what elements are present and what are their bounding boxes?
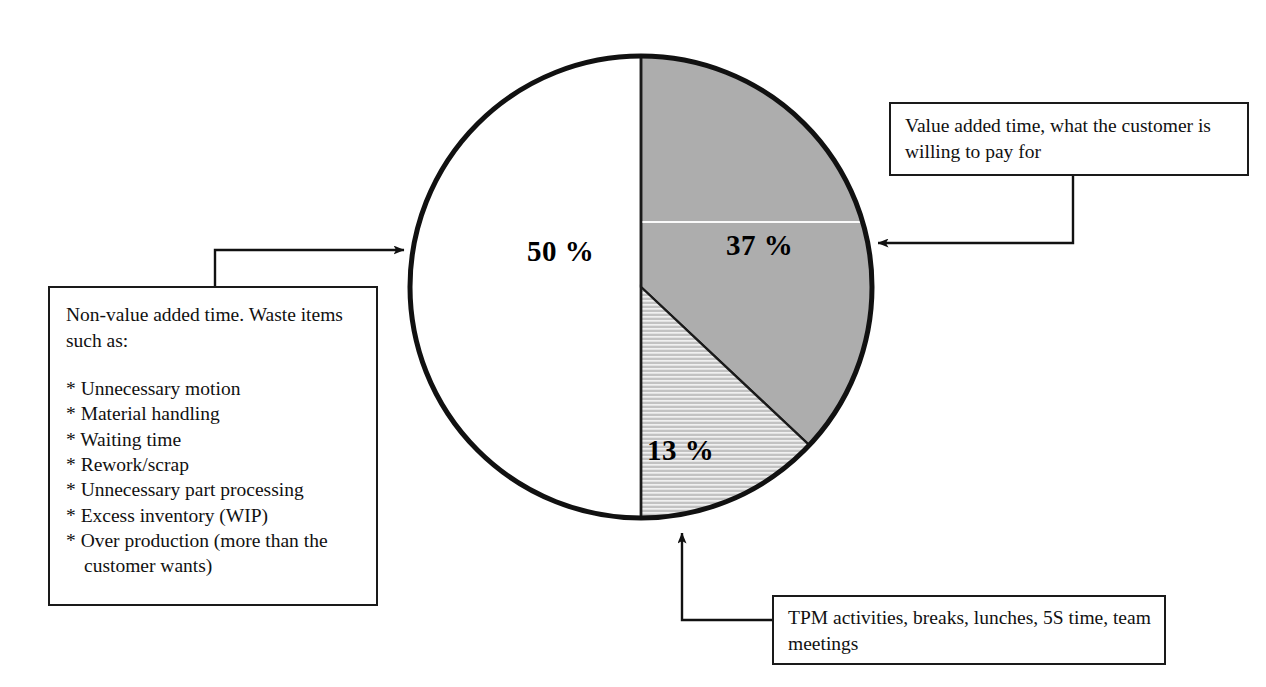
waste-items-list: * Unnecessary motion * Material handling… (66, 376, 364, 579)
list-item: * Unnecessary part processing (66, 477, 364, 502)
callout-value-added-text: Value added time, what the customer is w… (905, 113, 1237, 165)
list-item: * Waiting time (66, 427, 364, 452)
callout-tpm[interactable]: TPM activities, breaks, lunches, 5S time… (772, 595, 1166, 665)
list-item: * Rework/scrap (66, 452, 364, 477)
list-item: * Over production (more than the custome… (66, 528, 364, 579)
list-item: * Excess inventory (WIP) (66, 503, 364, 528)
pie-slice-non-value-added[interactable] (410, 56, 641, 518)
pie-label-value-added: 37 % (726, 229, 793, 262)
pie-chart-diagram: 50 % 37 % 13 % Non-value added time. Was… (0, 0, 1266, 687)
connector-non-value-added (215, 250, 404, 286)
callout-value-added[interactable]: Value added time, what the customer is w… (889, 102, 1249, 176)
list-item: * Unnecessary motion (66, 376, 364, 401)
pie-label-non-value-added: 50 % (527, 235, 594, 268)
list-item: * Material handling (66, 401, 364, 426)
callout-non-value-added-lead: Non-value added time. Waste items such a… (66, 302, 364, 354)
callout-tpm-text: TPM activities, breaks, lunches, 5S time… (788, 605, 1154, 657)
pie-label-tpm: 13 % (647, 434, 714, 467)
connector-value-added (878, 176, 1073, 243)
callout-non-value-added[interactable]: Non-value added time. Waste items such a… (48, 286, 378, 606)
connector-tpm (682, 533, 772, 620)
